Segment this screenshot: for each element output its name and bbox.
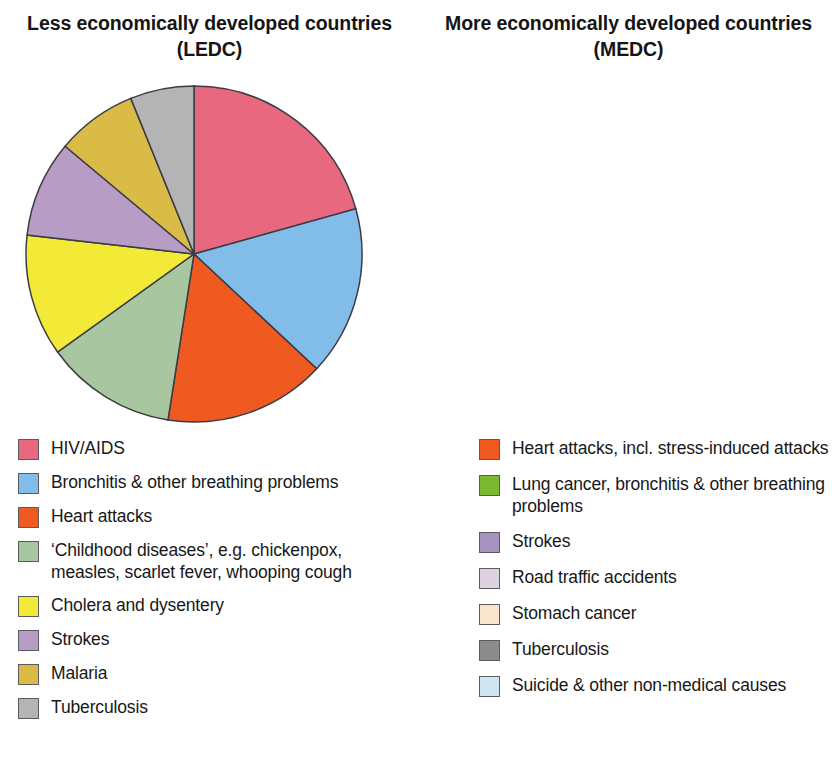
legend-item[interactable]: Bronchitis & other breathing problems (18, 471, 419, 494)
page-title-medc: More economically developed countries (M… (419, 10, 838, 63)
panel-medc: More economically developed countries (M… (419, 0, 838, 783)
page-title-ledc: Less economically developed countries (L… (0, 10, 419, 63)
legend-swatch-icon (479, 475, 500, 496)
legend-medc: Heart attacks, incl. stress-induced atta… (419, 437, 838, 710)
legend-item[interactable]: ‘Childhood diseases’, e.g. chickenpox, m… (18, 539, 419, 583)
legend-item[interactable]: Heart attacks, incl. stress-induced atta… (479, 437, 838, 460)
legend-item[interactable]: HIV/AIDS (18, 437, 419, 460)
legend-item-label: Heart attacks (51, 505, 152, 527)
legend-item[interactable]: Cholera and dysentery (18, 594, 419, 617)
pie-chart-ledc (24, 84, 364, 428)
legend-item-label: Cholera and dysentery (51, 594, 224, 616)
legend-item-label: Suicide & other non-medical causes (512, 674, 786, 696)
legend-swatch-icon (479, 439, 500, 460)
legend-swatch-icon (18, 507, 39, 528)
legend-swatch-icon (18, 541, 39, 562)
legend-item[interactable]: Strokes (479, 530, 838, 553)
two-pie-chart-figure: Less economically developed countries (L… (0, 0, 838, 783)
legend-item[interactable]: Strokes (18, 628, 419, 651)
legend-swatch-icon (18, 698, 39, 719)
legend-item-label: Tuberculosis (51, 696, 148, 718)
legend-item[interactable]: Road traffic accidents (479, 566, 838, 589)
legend-swatch-icon (18, 439, 39, 460)
legend-swatch-icon (18, 664, 39, 685)
legend-item-label: Road traffic accidents (512, 566, 677, 588)
legend-item[interactable]: Malaria (18, 662, 419, 685)
legend-ledc: HIV/AIDSBronchitis & other breathing pro… (0, 437, 419, 730)
legend-item[interactable]: Lung cancer, bronchitis & other breathin… (479, 473, 838, 517)
legend-swatch-icon (479, 568, 500, 589)
legend-swatch-icon (479, 640, 500, 661)
legend-item-label: Stomach cancer (512, 602, 636, 624)
legend-swatch-icon (18, 630, 39, 651)
legend-item[interactable]: Heart attacks (18, 505, 419, 528)
legend-item-label: ‘Childhood diseases’, e.g. chickenpox, m… (51, 539, 411, 583)
legend-swatch-icon (479, 604, 500, 625)
legend-item-label: HIV/AIDS (51, 437, 125, 459)
pie-svg-ledc (24, 84, 364, 424)
legend-swatch-icon (18, 473, 39, 494)
legend-item[interactable]: Suicide & other non-medical causes (479, 674, 838, 697)
legend-swatch-icon (479, 676, 500, 697)
legend-swatch-icon (18, 596, 39, 617)
legend-item-label: Lung cancer, bronchitis & other breathin… (512, 473, 838, 517)
legend-item-label: Strokes (512, 530, 570, 552)
panel-ledc: Less economically developed countries (L… (0, 0, 419, 783)
legend-item[interactable]: Stomach cancer (479, 602, 838, 625)
legend-item-label: Bronchitis & other breathing problems (51, 471, 338, 493)
legend-item-label: Malaria (51, 662, 107, 684)
legend-item-label: Heart attacks, incl. stress-induced atta… (512, 437, 828, 459)
legend-item-label: Tuberculosis (512, 638, 609, 660)
legend-item-label: Strokes (51, 628, 109, 650)
legend-swatch-icon (479, 532, 500, 553)
legend-item[interactable]: Tuberculosis (18, 696, 419, 719)
legend-item[interactable]: Tuberculosis (479, 638, 838, 661)
